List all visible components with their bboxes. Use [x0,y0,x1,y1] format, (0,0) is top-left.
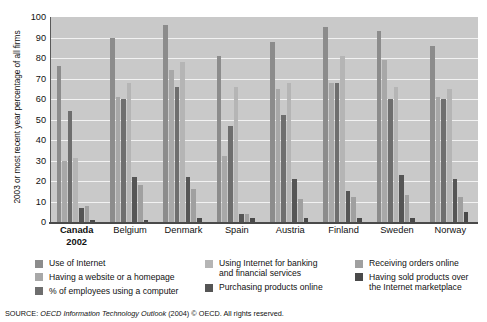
y-axis-tick-label: 30 [20,156,46,166]
legend-item-label-line2: the Internet marketplace [369,282,468,292]
legend-swatch-icon [35,273,43,281]
y-axis-tick-label: 40 [20,135,46,145]
bar [85,206,90,222]
x-axis-group-label: Norway [416,225,485,237]
legend-item: Having sold products overthe Internet ma… [355,272,468,293]
bar [169,70,174,222]
bar [175,87,180,222]
legend-swatch-icon [355,260,363,268]
chart-figure: 2003 or most recent year percentage of a… [0,0,487,322]
bar [323,27,328,222]
bar [394,87,399,222]
bar [346,191,351,222]
bar [116,97,121,222]
legend-column: Use of InternetHaving a website or a hom… [35,258,178,299]
bar [163,25,168,222]
bar [298,199,303,222]
bar [436,97,441,222]
legend-item-label: Purchasing products online [219,282,323,292]
bar [441,99,446,222]
legend-item-label: Using Internet for banking [219,258,323,268]
y-axis-tick-label: 20 [20,176,46,186]
bar [245,214,250,222]
bar [68,111,73,222]
bar [351,197,356,222]
legend-item-label: Use of Internet [49,258,178,268]
legend-swatch-icon [35,287,43,295]
legend-item: % of employees using a computer [35,286,178,296]
legend-item-label: Having a website or a homepage [49,272,178,282]
bar [234,87,239,222]
source-title: OECD Information Technology Outlook [40,309,166,318]
bar [110,38,115,223]
bar [458,197,463,222]
plot-area [50,17,478,222]
bar [405,195,410,222]
bar [217,56,222,222]
bar [121,99,126,222]
legend-item-label: Receiving orders online [369,258,468,268]
source-prefix: SOURCE: [5,309,40,318]
bar [340,56,345,222]
chart-legend: Use of InternetHaving a website or a hom… [0,258,487,306]
bar [73,158,78,222]
legend-item: Receiving orders online [355,258,468,268]
legend-swatch-icon [205,284,213,292]
y-axis-tick-label: 80 [20,53,46,63]
legend-item-label: % of employees using a computer [49,286,178,296]
bar [62,161,67,223]
legend-swatch-icon [205,260,213,268]
bar [270,42,275,222]
bar [79,208,84,222]
x-axis-group-label-line2: 2002 [42,237,111,249]
legend-item-label-line2: and financial services [219,268,323,278]
bar [138,185,143,222]
bar [191,189,196,222]
legend-column: Using Internet for bankingand financial … [205,258,323,296]
bar [377,31,382,222]
bar [228,126,233,222]
source-suffix: (2004) © OECD. All rights reserved. [166,309,284,318]
bar [382,60,387,222]
legend-column: Receiving orders onlineHaving sold produ… [355,258,468,296]
bar-series-container [51,17,478,222]
bar [132,177,137,222]
y-axis-tick-label: 100 [20,12,46,22]
bar [57,66,62,222]
legend-item-label: Having sold products over [369,272,468,282]
bar [329,83,334,222]
bar [276,89,281,222]
legend-swatch-icon [35,260,43,268]
bar [287,83,292,222]
legend-item: Purchasing products online [205,282,323,292]
bar [222,156,227,222]
bar [335,83,340,222]
bar [281,115,286,222]
bar [239,214,244,222]
y-axis-tick-label: 10 [20,197,46,207]
y-axis-tick-label: 70 [20,74,46,84]
bar [292,179,297,222]
bar [447,89,452,222]
legend-item: Use of Internet [35,258,178,268]
bar [453,179,458,222]
y-axis-tick-label: 90 [20,33,46,43]
source-note: SOURCE: OECD Information Technology Outl… [5,309,284,318]
x-axis-group-label-line1: Norway [416,225,485,237]
legend-item: Having a website or a homepage [35,272,178,282]
y-axis-tick-label: 60 [20,94,46,104]
bar [464,212,469,222]
bar [430,46,435,222]
y-axis-ticks: 0102030405060708090100 [16,17,46,222]
x-axis-labels: Canada2002BelgiumDenmarkSpainAustriaFinl… [50,225,477,257]
bar [388,99,393,222]
legend-item: Using Internet for bankingand financial … [205,258,323,279]
bar [180,62,185,222]
bar [399,175,404,222]
x-axis-line [49,222,478,224]
bar [127,83,132,222]
y-axis-tick-label: 50 [20,115,46,125]
legend-swatch-icon [355,273,363,281]
bar [186,177,191,222]
